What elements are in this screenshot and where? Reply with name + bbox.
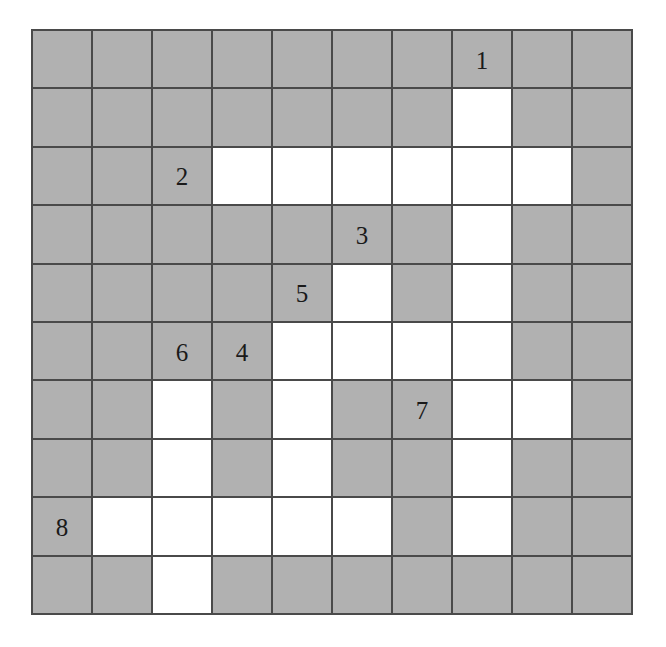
grid-cell-filled	[213, 31, 273, 89]
grid-cell-filled	[153, 265, 213, 323]
grid-cell-filled	[213, 557, 273, 615]
grid-cell-filled	[93, 265, 153, 323]
grid-cell-filled: 1	[453, 31, 513, 89]
grid-cell-filled: 6	[153, 323, 213, 381]
clue-number: 8	[56, 515, 69, 540]
grid-cell-filled	[513, 498, 573, 556]
clue-number: 6	[176, 340, 189, 365]
grid-cell-filled	[93, 31, 153, 89]
grid-cell-open[interactable]	[213, 148, 273, 206]
grid-cell-open[interactable]	[153, 440, 213, 498]
grid-cell-filled	[33, 148, 93, 206]
grid-cell-filled	[513, 206, 573, 264]
grid-cell-filled	[153, 31, 213, 89]
grid-cell-open[interactable]	[453, 89, 513, 147]
grid-cell-open[interactable]	[393, 323, 453, 381]
grid-cell-open[interactable]	[153, 498, 213, 556]
grid-cell-filled	[273, 557, 333, 615]
grid-cell-filled	[33, 89, 93, 147]
grid-cell-filled	[153, 206, 213, 264]
grid-cell-open[interactable]	[273, 498, 333, 556]
grid-cell-filled	[513, 265, 573, 323]
grid-cell-filled	[393, 89, 453, 147]
grid-cell-filled	[273, 89, 333, 147]
grid-cell-filled	[33, 323, 93, 381]
grid-cell-open[interactable]	[513, 148, 573, 206]
grid-cell-filled	[393, 265, 453, 323]
grid-cell-filled	[573, 206, 633, 264]
grid-cell-open[interactable]	[153, 381, 213, 439]
grid-cell-filled	[573, 498, 633, 556]
grid-cell-filled	[393, 31, 453, 89]
grid-cell-filled	[93, 323, 153, 381]
grid-cell-open[interactable]	[273, 440, 333, 498]
grid-cell-filled: 7	[393, 381, 453, 439]
grid-cell-open[interactable]	[453, 148, 513, 206]
grid-cell-filled	[573, 89, 633, 147]
grid-cell-filled	[33, 265, 93, 323]
grid-cell-open[interactable]	[453, 440, 513, 498]
grid-cell-filled: 8	[33, 498, 93, 556]
grid-cell-filled	[393, 206, 453, 264]
grid-cell-open[interactable]	[333, 148, 393, 206]
grid-cell-open[interactable]	[513, 381, 573, 439]
grid-cell-filled	[213, 381, 273, 439]
clue-number: 5	[296, 281, 309, 306]
grid-cell-filled	[513, 323, 573, 381]
grid-cell-filled	[33, 440, 93, 498]
grid-cell-open[interactable]	[333, 498, 393, 556]
grid-cell-filled	[573, 557, 633, 615]
grid-cell-filled	[513, 557, 573, 615]
grid-cell-filled	[213, 265, 273, 323]
grid-cell-open[interactable]	[153, 557, 213, 615]
grid-cell-filled	[573, 265, 633, 323]
grid-cell-filled	[453, 557, 513, 615]
clue-number: 7	[416, 398, 429, 423]
grid-cell-open[interactable]	[273, 148, 333, 206]
crossword-grid: 12356478	[31, 29, 633, 615]
grid-cell-filled	[273, 31, 333, 89]
grid-cell-filled	[93, 148, 153, 206]
grid-cell-open[interactable]	[93, 498, 153, 556]
grid-cell-filled	[573, 31, 633, 89]
grid-cell-open[interactable]	[393, 148, 453, 206]
grid-cell-open[interactable]	[213, 498, 273, 556]
clue-number: 1	[476, 48, 489, 73]
grid-cell-filled: 3	[333, 206, 393, 264]
grid-cell-filled: 2	[153, 148, 213, 206]
grid-cell-filled	[213, 206, 273, 264]
grid-cell-filled	[333, 89, 393, 147]
grid-cell-filled	[93, 557, 153, 615]
grid-cell-filled	[333, 31, 393, 89]
grid-cell-filled	[513, 440, 573, 498]
grid-cell-filled	[33, 31, 93, 89]
grid-cell-filled: 5	[273, 265, 333, 323]
grid-cell-open[interactable]	[453, 265, 513, 323]
grid-cell-open[interactable]	[453, 381, 513, 439]
grid-cell-filled	[93, 440, 153, 498]
grid-cell-open[interactable]	[273, 323, 333, 381]
grid-cell-filled	[333, 557, 393, 615]
grid-cell-filled	[333, 440, 393, 498]
grid-cell-filled	[93, 381, 153, 439]
clue-number: 3	[356, 223, 369, 248]
grid-cell-filled	[273, 206, 333, 264]
grid-cell-filled	[33, 557, 93, 615]
grid-cell-open[interactable]	[333, 323, 393, 381]
grid-cell-open[interactable]	[453, 498, 513, 556]
grid-cell-filled	[93, 89, 153, 147]
grid-cell-filled: 4	[213, 323, 273, 381]
grid-cell-filled	[573, 381, 633, 439]
crossword-puzzle-root: 12356478	[0, 0, 666, 647]
grid-cell-filled	[213, 440, 273, 498]
grid-cell-filled	[573, 440, 633, 498]
grid-cell-open[interactable]	[453, 206, 513, 264]
grid-cell-open[interactable]	[273, 381, 333, 439]
grid-cell-open[interactable]	[333, 265, 393, 323]
grid-cell-open[interactable]	[453, 323, 513, 381]
grid-cell-filled	[513, 31, 573, 89]
grid-cell-filled	[333, 381, 393, 439]
grid-cell-filled	[33, 206, 93, 264]
grid-cell-filled	[573, 148, 633, 206]
clue-number: 2	[176, 164, 189, 189]
